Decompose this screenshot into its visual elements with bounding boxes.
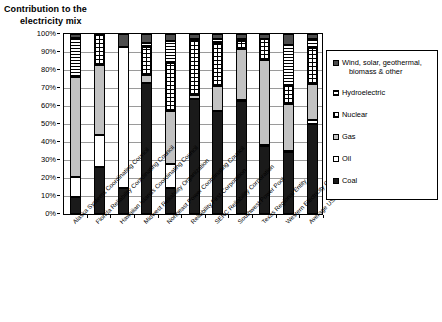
bar-segment-gas[interactable] xyxy=(236,49,247,99)
bar-segment-nuclear[interactable] xyxy=(259,39,270,60)
legend-label: Wind, solar, geothermal,biomass & other xyxy=(342,59,422,76)
bar-segment-wind[interactable] xyxy=(212,34,223,39)
y-axis-tick-label: 10% xyxy=(41,192,56,200)
legend-item-coal[interactable]: Coal xyxy=(333,177,357,186)
legend-item-nuclear[interactable]: Nuclear xyxy=(333,111,367,120)
y-axis-tick-mark xyxy=(57,105,60,106)
bar-segment-wind[interactable] xyxy=(307,34,318,39)
bar-segment-gas[interactable] xyxy=(94,65,105,135)
stacked-bar[interactable] xyxy=(70,34,81,214)
y-axis-tick-label: 40% xyxy=(41,138,56,146)
bar-segment-gas[interactable] xyxy=(283,104,294,151)
y-axis-tick-label: 60% xyxy=(41,102,56,110)
bar-segment-oil[interactable] xyxy=(70,177,81,197)
chart-legend: Wind, solar, geothermal,biomass & otherH… xyxy=(326,50,438,200)
legend-label: Gas xyxy=(342,133,356,142)
bar-segment-nuclear[interactable] xyxy=(141,47,152,76)
bar-segment-hydro[interactable] xyxy=(307,39,318,48)
x-axis-tick-mark xyxy=(276,215,277,218)
legend-item-gas[interactable]: Gas xyxy=(333,133,356,142)
title-line-1: Contribution to the xyxy=(4,4,87,14)
y-axis-tick-mark xyxy=(57,87,60,88)
bar-segment-nuclear[interactable] xyxy=(307,48,318,84)
bar-segment-nuclear[interactable] xyxy=(283,86,294,104)
bar-segment-nuclear[interactable] xyxy=(165,63,176,112)
legend-label-continued: biomass & other xyxy=(342,68,422,77)
y-axis-tick-mark xyxy=(57,213,60,214)
legend-item-oil[interactable]: Oil xyxy=(333,155,351,164)
legend-label: Nuclear xyxy=(342,111,367,120)
bar-segment-gas[interactable] xyxy=(189,95,200,99)
bar-segment-wind[interactable] xyxy=(118,34,129,47)
y-axis-tick-label: 50% xyxy=(41,120,56,128)
bar-segment-wind[interactable] xyxy=(70,34,81,38)
y-axis: 100%90%80%70%60%50%40%30%20%10%0% xyxy=(24,28,60,220)
bar-group[interactable] xyxy=(70,34,81,214)
bar-segment-hydro[interactable] xyxy=(236,39,247,42)
y-axis-tick-mark xyxy=(57,123,60,124)
legend-item-wind[interactable]: Wind, solar, geothermal,biomass & other xyxy=(333,59,422,76)
legend-label: Coal xyxy=(342,177,357,186)
title-line-2: electricity mix xyxy=(4,15,174,27)
bar-segment-hydro[interactable] xyxy=(189,39,200,41)
legend-swatch-wind-icon xyxy=(333,60,339,66)
y-axis-tick-mark xyxy=(57,159,60,160)
y-axis-tick-label: 30% xyxy=(41,156,56,164)
bar-segment-hydro[interactable] xyxy=(165,41,176,63)
bar-segment-wind[interactable] xyxy=(259,34,270,39)
y-axis-tick-mark xyxy=(57,195,60,196)
bar-segment-hydro[interactable] xyxy=(141,43,152,47)
legend-swatch-nuclear-icon xyxy=(333,112,339,118)
y-axis-tick-mark xyxy=(57,33,60,34)
x-axis-tick-mark xyxy=(181,215,182,218)
y-axis-tick-label: 20% xyxy=(41,174,56,182)
bar-segment-nuclear[interactable] xyxy=(94,34,105,65)
x-axis-tick-mark xyxy=(252,215,253,218)
bar-segment-oil[interactable] xyxy=(307,120,318,124)
bar-segment-nuclear[interactable] xyxy=(236,41,247,49)
x-axis-tick-mark xyxy=(228,215,229,218)
page-title: Contribution to the electricity mix xyxy=(4,3,174,27)
bar-segment-nuclear[interactable] xyxy=(189,41,200,95)
bar-segment-nuclear[interactable] xyxy=(212,43,223,86)
x-axis-tick-mark xyxy=(323,215,324,218)
bar-segment-wind[interactable] xyxy=(141,34,152,43)
x-axis-tick-mark xyxy=(134,215,135,218)
x-axis: Alaska Systems Coordinating CouncilFlori… xyxy=(0,215,442,322)
legend-swatch-coal-icon xyxy=(333,178,339,184)
legend-item-hydro[interactable]: Hydroelectric xyxy=(333,89,385,98)
y-axis-tick-label: 80% xyxy=(41,66,56,74)
bar-segment-hydro[interactable] xyxy=(212,39,223,43)
x-axis-tick-mark xyxy=(158,215,159,218)
x-axis-tick-mark xyxy=(205,215,206,218)
bar-segment-wind[interactable] xyxy=(165,34,176,41)
bar-segment-wind[interactable] xyxy=(283,34,294,45)
bar-segment-gas[interactable] xyxy=(212,86,223,110)
legend-label: Hydroelectric xyxy=(342,89,385,98)
bar-segment-gas[interactable] xyxy=(259,60,270,145)
legend-swatch-gas-icon xyxy=(333,134,339,140)
bar-segment-hydro[interactable] xyxy=(283,45,294,86)
bar-segment-wind[interactable] xyxy=(189,34,200,39)
legend-label: Oil xyxy=(342,155,351,164)
y-axis-tick-mark xyxy=(57,51,60,52)
legend-swatch-hydro-icon xyxy=(333,90,339,96)
y-axis-tick-mark xyxy=(57,69,60,70)
y-axis-tick-label: 90% xyxy=(41,48,56,56)
bar-segment-gas[interactable] xyxy=(141,75,152,82)
y-axis-tick-label: 100% xyxy=(37,30,56,38)
y-axis-tick-mark xyxy=(57,141,60,142)
x-axis-tick-mark xyxy=(110,215,111,218)
bar-segment-wind[interactable] xyxy=(236,34,247,39)
x-axis-tick-mark xyxy=(299,215,300,218)
bar-segment-gas[interactable] xyxy=(307,84,318,120)
legend-swatch-oil-icon xyxy=(333,156,339,162)
bar-segment-oil[interactable] xyxy=(94,135,105,167)
bar-segment-gas[interactable] xyxy=(70,77,81,177)
y-axis-tick-label: 70% xyxy=(41,84,56,92)
bar-segment-hydro[interactable] xyxy=(70,38,81,78)
y-axis-tick-mark xyxy=(57,177,60,178)
x-axis-tick-mark xyxy=(87,215,88,218)
